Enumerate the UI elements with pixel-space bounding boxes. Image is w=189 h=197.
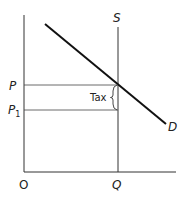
tax-label: Tax <box>89 92 107 103</box>
price-after-tax-label: P1 <box>8 103 20 119</box>
demand-curve <box>45 24 166 124</box>
price-after-tax-subscript: 1 <box>15 110 20 119</box>
quantity-label: Q <box>112 178 121 192</box>
origin-label: O <box>19 178 28 192</box>
supply-label: S <box>113 11 121 25</box>
tax-brace-icon <box>111 85 118 110</box>
price-label: P <box>9 79 17 93</box>
demand-label: D <box>168 120 177 134</box>
supply-demand-tax-diagram: S D P P1 Tax O Q <box>0 0 189 197</box>
